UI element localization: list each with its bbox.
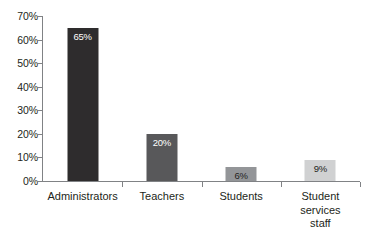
y-axis-tick-label: 20% — [0, 128, 38, 139]
bar[interactable]: 6% — [226, 167, 257, 181]
x-axis-tick-mark — [202, 182, 203, 187]
y-axis: 0%10%20%30%40%50%60%70% — [0, 0, 38, 229]
x-axis-category-label: Teachers — [122, 190, 201, 204]
y-axis-tick-label: 50% — [0, 58, 38, 69]
bar[interactable]: 65% — [67, 28, 98, 181]
bar-value-label: 65% — [67, 31, 98, 42]
x-axis-category-label: Students — [202, 190, 281, 204]
bar-value-label: 20% — [146, 137, 177, 148]
y-axis-tick-label: 30% — [0, 105, 38, 116]
x-axis-category-label-line: Students — [202, 190, 281, 204]
bar-chart: 0%10%20%30%40%50%60%70% 65%20%6%9% Admin… — [0, 0, 380, 229]
plot-area: 65%20%6%9% — [43, 16, 360, 181]
x-axis-category-label-line: Teachers — [122, 190, 201, 204]
x-axis-category-label-line: Administrators — [43, 190, 122, 204]
bar-slot: 20% — [122, 16, 201, 181]
bar-value-label: 9% — [305, 163, 336, 174]
x-axis-category-label-line: Student services — [281, 190, 360, 217]
bar[interactable]: 20% — [146, 134, 177, 181]
x-axis: AdministratorsTeachersStudentsStudent se… — [43, 190, 360, 228]
x-axis-category-label: Student servicesstaff — [281, 190, 360, 229]
bar-slot: 6% — [202, 16, 281, 181]
x-axis-tick-mark — [360, 182, 361, 187]
x-axis-tick-mark — [281, 182, 282, 187]
y-axis-tick-label: 60% — [0, 34, 38, 45]
y-axis-tick-label: 0% — [0, 176, 38, 187]
y-axis-tick-label: 10% — [0, 152, 38, 163]
x-axis-category-label-line: staff — [281, 217, 360, 229]
bar[interactable]: 9% — [305, 160, 336, 181]
bar-slot: 9% — [281, 16, 360, 181]
x-axis-tick-mark — [122, 182, 123, 187]
y-axis-tick-label: 70% — [0, 11, 38, 22]
bar-slot: 65% — [43, 16, 122, 181]
x-axis-category-label: Administrators — [43, 190, 122, 204]
y-axis-tick-label: 40% — [0, 81, 38, 92]
bar-value-label: 6% — [226, 170, 257, 181]
